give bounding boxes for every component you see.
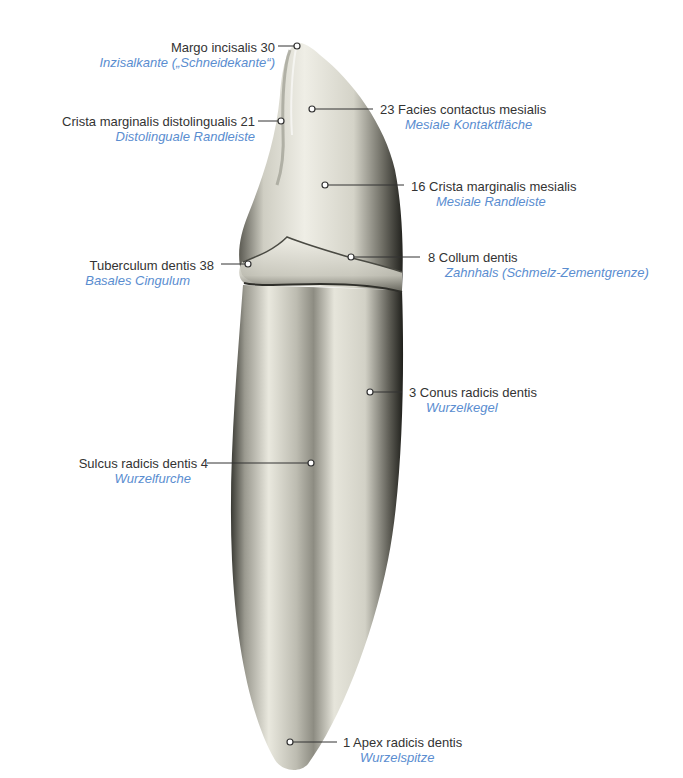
german-term: Basales Cingulum [85, 273, 214, 288]
marker-1 [287, 739, 293, 745]
latin-term: 3 Conus radicis dentis [409, 385, 537, 400]
latin-term: 8 Collum dentis [428, 250, 649, 265]
label-sulcus-radicis-dentis: Sulcus radicis dentis 4 Wurzelfurche [79, 456, 208, 486]
latin-term: Sulcus radicis dentis 4 [79, 456, 208, 471]
german-term: Distolinguale Randleiste [62, 129, 255, 144]
german-term: Inzisalkante („Schneidekante“) [99, 55, 275, 70]
latin-term: 16 Crista marginalis mesialis [411, 179, 576, 194]
latin-term: Tuberculum dentis 38 [85, 258, 214, 273]
marker-3 [367, 389, 373, 395]
marker-30 [294, 43, 300, 49]
latin-term: Margo incisalis 30 [99, 40, 275, 55]
label-crista-marginalis-distolingualis: Crista marginalis distolingualis 21 Dist… [62, 114, 255, 144]
german-term: Wurzelfurche [79, 471, 208, 486]
label-tuberculum-dentis: Tuberculum dentis 38 Basales Cingulum [85, 258, 214, 288]
german-term: Zahnhals (Schmelz-Zementgrenze) [428, 265, 649, 280]
german-term: Mesiale Randleiste [411, 194, 576, 209]
label-conus-radicis-dentis: 3 Conus radicis dentis Wurzelkegel [409, 385, 537, 415]
german-term: Wurzelkegel [409, 400, 537, 415]
label-margo-incisalis: Margo incisalis 30 Inzisalkante („Schnei… [99, 40, 275, 70]
marker-23 [309, 106, 315, 112]
label-facies-contactus-mesialis: 23 Facies contactus mesialis Mesiale Kon… [380, 102, 546, 132]
tooth-root [231, 285, 403, 770]
german-term: Wurzelspitze [343, 750, 462, 765]
marker-8 [348, 254, 354, 260]
label-crista-marginalis-mesialis: 16 Crista marginalis mesialis Mesiale Ra… [411, 179, 576, 209]
label-apex-radicis-dentis: 1 Apex radicis dentis Wurzelspitze [343, 735, 462, 765]
german-term: Mesiale Kontaktfläche [380, 117, 546, 132]
marker-38 [245, 261, 251, 267]
latin-term: 1 Apex radicis dentis [343, 735, 462, 750]
marker-16 [322, 182, 328, 188]
latin-term: 23 Facies contactus mesialis [380, 102, 546, 117]
label-collum-dentis: 8 Collum dentis Zahnhals (Schmelz-Zement… [428, 250, 649, 280]
marker-4 [308, 460, 314, 466]
marker-21 [278, 118, 284, 124]
latin-term: Crista marginalis distolingualis 21 [62, 114, 255, 129]
